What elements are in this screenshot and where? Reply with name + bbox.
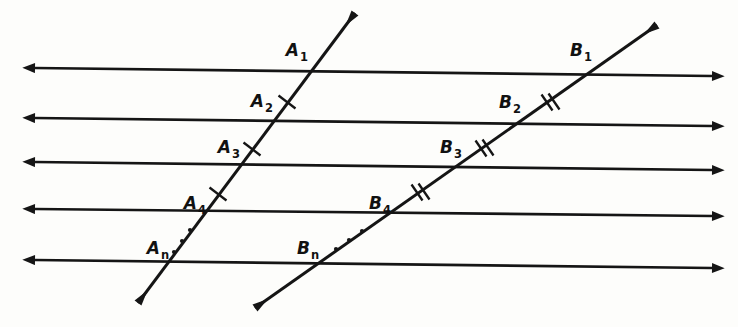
label-a4: A 4	[182, 193, 206, 217]
label-bn-letter: B	[297, 238, 310, 258]
ellipsis-a	[172, 228, 192, 254]
label-b2: B 2	[499, 92, 521, 116]
parallel-line-3	[35, 162, 712, 170]
ellipsis-dot	[188, 228, 192, 232]
label-bn: B n	[297, 238, 319, 262]
ellipsis-dot	[360, 229, 364, 233]
label-b3-subscript: 3	[454, 147, 462, 161]
label-an-letter: A	[145, 238, 160, 258]
label-an-subscript: n	[161, 248, 169, 262]
label-an: A n	[145, 238, 169, 262]
parallel-line-1	[35, 68, 712, 76]
label-b2-subscript: 2	[513, 102, 521, 116]
label-a4-letter: A	[182, 193, 197, 213]
label-a4-subscript: 4	[198, 203, 206, 217]
diagram-canvas: A 1 A 2 A 3 A 4 A n B 1	[0, 0, 738, 327]
label-a2-letter: A	[249, 91, 264, 111]
label-b4-subscript: 4	[383, 203, 391, 217]
label-a1-subscript: 1	[300, 50, 308, 64]
label-b4-letter: B	[369, 193, 382, 213]
ellipsis-dot	[180, 239, 184, 243]
label-b1-letter: B	[570, 40, 583, 60]
label-a3: A 3	[216, 137, 240, 161]
labels-a-group: A 1 A 2 A 3 A 4 A n	[145, 40, 308, 262]
ellipsis-dot	[347, 238, 351, 242]
label-a3-subscript: 3	[232, 147, 240, 161]
label-a2: A 2	[249, 91, 273, 115]
label-a1: A 1	[284, 40, 308, 64]
label-a2-subscript: 2	[265, 101, 273, 115]
parallel-line-5	[35, 260, 712, 268]
label-a1-letter: A	[284, 40, 299, 60]
label-b1-subscript: 1	[584, 50, 592, 64]
label-a3-letter: A	[216, 137, 231, 157]
label-b1: B 1	[570, 40, 592, 64]
geometry-figure: A 1 A 2 A 3 A 4 A n B 1	[0, 0, 738, 327]
parallel-line-2	[35, 118, 712, 126]
label-b3: B 3	[440, 137, 462, 161]
parallel-lines-group	[35, 68, 712, 268]
label-bn-subscript: n	[311, 248, 319, 262]
label-b3-letter: B	[440, 137, 453, 157]
label-b2-letter: B	[499, 92, 512, 112]
ellipsis-dot	[172, 250, 176, 254]
ellipsis-dot	[334, 247, 338, 251]
